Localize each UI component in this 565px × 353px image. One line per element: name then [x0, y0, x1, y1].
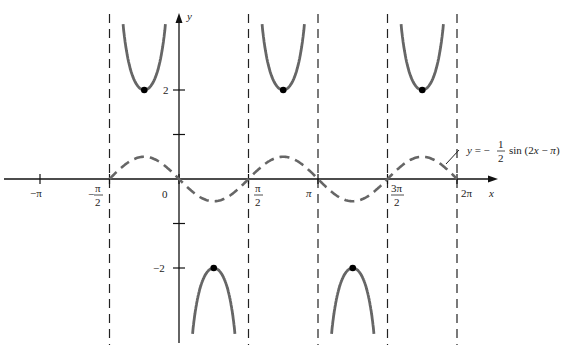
cosecant-branch: [401, 24, 443, 90]
x-axis-arrow-icon: [488, 176, 498, 183]
tick-label-neg-half-pi-num: π: [95, 182, 101, 194]
extremum-dot: [141, 87, 148, 94]
tick-label-neg-pi: −π: [30, 187, 42, 199]
chart: y x −π − π 2 0 π 2 π 3π 2 2π 2 −2 y = − …: [0, 0, 565, 353]
cosecant-branch: [262, 24, 304, 90]
tick-label-half-pi-den: 2: [255, 196, 261, 208]
y-axis-arrow-icon: [176, 13, 183, 23]
cosecant-branch: [123, 24, 165, 90]
tick-label-y-2: 2: [163, 84, 169, 96]
tick-label-two-pi: 2π: [461, 187, 473, 199]
equation-frac-den: 2: [498, 152, 504, 164]
cosecant-branch: [193, 268, 235, 334]
cosecant-branch: [332, 268, 374, 334]
extremum-dot: [210, 265, 217, 272]
x-axis-label: x: [488, 187, 494, 199]
equation-suffix: sin (2x − π): [509, 144, 560, 157]
tick-label-three-half-pi-den: 2: [394, 196, 400, 208]
tick-label-pi: π: [306, 187, 312, 199]
tick-label-y-neg-2: −2: [153, 262, 165, 274]
tick-label-neg-half-pi-sign: −: [88, 188, 94, 200]
y-axis-label: y: [186, 10, 192, 22]
tick-label-zero: 0: [162, 188, 168, 200]
tick-label-three-half-pi-num: 3π: [391, 182, 403, 194]
tick-label-neg-half-pi-den: 2: [95, 196, 101, 208]
equation-frac-num: 1: [498, 138, 504, 150]
extremum-dot: [280, 87, 287, 94]
extremum-dot: [419, 87, 426, 94]
extremum-dot: [349, 265, 356, 272]
tick-label-half-pi-num: π: [255, 182, 261, 194]
equation-prefix: y = −: [466, 144, 490, 156]
